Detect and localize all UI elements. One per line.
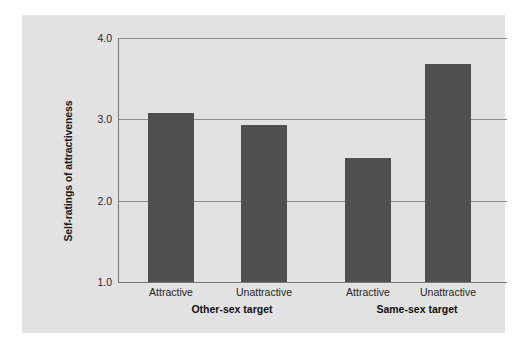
bar-same-sex-attractive[interactable]	[345, 158, 391, 282]
bar-other-sex-unattractive[interactable]	[241, 125, 287, 282]
bar-other-sex-attractive[interactable]	[148, 113, 194, 282]
y-tick-label-4: 4.0	[97, 32, 112, 44]
group-label-other-sex: Other-sex target	[149, 303, 315, 315]
plot-area: 4.0 3.0 2.0 1.0 Attractive Unattractive	[118, 38, 507, 283]
y-tick-label-1: 1.0	[97, 276, 112, 288]
y-tick-label-2: 2.0	[97, 195, 112, 207]
bar-same-sex-unattractive[interactable]	[425, 64, 471, 282]
y-axis-title: Self-ratings of attractiveness	[62, 61, 74, 281]
x-tick-label-2: Unattractive	[209, 286, 319, 298]
figure: Self-ratings of attractiveness 4.0 3.0 2…	[0, 0, 526, 350]
y-tick-label-3: 3.0	[97, 113, 112, 125]
chart-panel: Self-ratings of attractiveness 4.0 3.0 2…	[22, 15, 505, 333]
group-label-same-sex: Same-sex target	[334, 303, 500, 315]
gridline-4	[119, 38, 507, 39]
x-tick-label-4: Unattractive	[393, 286, 503, 298]
